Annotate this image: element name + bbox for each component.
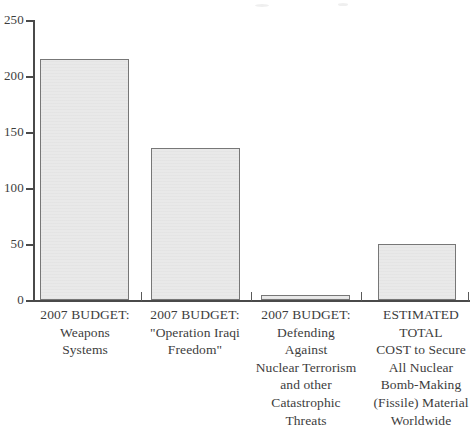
x-tick-1 (141, 292, 142, 301)
x-label-line: Threats (240, 412, 372, 429)
y-tick-100 (26, 188, 35, 190)
y-tick-0 (26, 300, 35, 302)
x-label-weapons-systems: 2007 BUDGET: Weapons Systems (22, 306, 148, 359)
x-label-line: 2007 BUDGET: (22, 306, 148, 324)
x-label-line: Catastrophic (240, 394, 372, 412)
x-label-line: (Fissile) Material (358, 394, 472, 412)
y-tick-label-0: 0 (0, 293, 24, 306)
bar-weapons-systems (40, 59, 129, 300)
x-tick-4 (468, 292, 469, 301)
x-axis-labels: 2007 BUDGET: Weapons Systems 2007 BUDGET… (0, 306, 472, 424)
x-label-line: and other (240, 376, 372, 394)
y-tick-50 (26, 244, 35, 246)
plot-area: 250 200 150 100 50 0 (0, 0, 472, 310)
x-label-line: Weapons (22, 324, 148, 342)
x-label-line: Systems (22, 341, 148, 359)
x-label-line: Nuclear Terrorism (240, 359, 372, 377)
x-label-estimated-total-cost-secure-fissile-material: ESTIMATED TOTAL COST to Secure All Nucle… (358, 306, 472, 429)
x-label-line: All Nuclear (358, 359, 472, 377)
x-tick-3 (361, 292, 362, 301)
y-tick-label-200: 200 (0, 69, 24, 82)
x-label-line: Worldwide (358, 412, 472, 429)
x-label-line: Against (240, 341, 372, 359)
y-tick-label-250: 250 (0, 13, 24, 26)
x-tick-2 (251, 292, 252, 301)
bar-defending-against-nuclear-terrorism (261, 295, 350, 300)
x-label-line: ESTIMATED (358, 306, 472, 324)
y-tick-label-150: 150 (0, 125, 24, 138)
bar-operation-iraqi-freedom (151, 148, 240, 300)
x-label-line: Bomb-Making (358, 376, 472, 394)
y-tick-200 (26, 76, 35, 78)
y-tick-150 (26, 132, 35, 134)
x-label-defending-against-nuclear-terrorism: 2007 BUDGET: Defending Against Nuclear T… (240, 306, 372, 429)
bar-estimated-total-cost-secure-fissile-material (378, 244, 456, 300)
y-tick-label-50: 50 (0, 237, 24, 250)
x-label-line: 2007 BUDGET: (240, 306, 372, 324)
y-axis-line (33, 20, 35, 301)
y-tick-250 (26, 20, 35, 22)
x-label-line: TOTAL (358, 324, 472, 342)
y-tick-label-100: 100 (0, 181, 24, 194)
x-label-line: Defending (240, 324, 372, 342)
x-label-line: COST to Secure (358, 341, 472, 359)
